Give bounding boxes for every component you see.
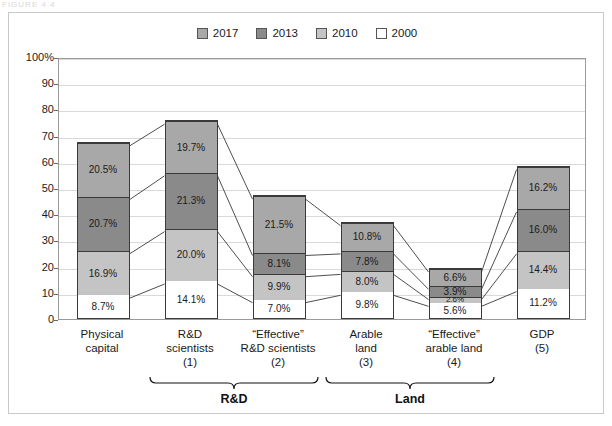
legend-item-2010[interactable]: 2010 xyxy=(316,27,358,39)
bar-segment[interactable]: 8.0% xyxy=(342,271,393,292)
bar-column[interactable]: 11.2%14.4%16.0%16.2% xyxy=(517,166,570,319)
y-tick-mark-10 xyxy=(54,294,58,295)
bar-segment-value: 8.7% xyxy=(92,302,115,312)
gridline-90 xyxy=(59,85,585,86)
bar-segment-value: 14.1% xyxy=(177,295,205,305)
x-axis-label-line: Arable xyxy=(322,327,410,341)
bar-segment[interactable]: 8.7% xyxy=(78,295,129,318)
bar-segment[interactable]: 7.0% xyxy=(254,300,305,318)
brace-rd xyxy=(150,377,318,389)
chart-figure: 2017 2013 2010 2000 8.7%16.9%20.7%20.5%1… xyxy=(8,12,604,414)
bar-segment[interactable]: 16.2% xyxy=(518,167,569,209)
bar-segment[interactable]: 20.0% xyxy=(166,229,217,281)
bar-column[interactable]: 9.8%8.0%7.8%10.8% xyxy=(341,222,394,319)
bar-segment-value: 16.9% xyxy=(89,269,117,279)
bar-segment-value: 3.9% xyxy=(444,287,467,297)
legend-label-2013: 2013 xyxy=(272,27,298,39)
y-tick-label-90: 90 xyxy=(8,77,54,89)
bar-segment-value: 20.5% xyxy=(89,165,117,175)
y-tick-label-50: 50 xyxy=(8,182,54,194)
connector-line xyxy=(482,254,517,300)
bar-segment-value: 7.0% xyxy=(268,304,291,314)
x-axis-label-line: (3) xyxy=(322,355,410,369)
bar-segment[interactable]: 16.9% xyxy=(78,251,129,295)
cropped-caption-fragment: FIGURE 4.4 xyxy=(0,0,612,9)
bar-segment[interactable]: 8.1% xyxy=(254,253,305,274)
x-axis-label-line: “Effective” xyxy=(410,327,498,341)
y-tick-mark-100 xyxy=(54,58,58,59)
bar-segment[interactable]: 20.5% xyxy=(78,143,129,197)
bar-column[interactable]: 7.0%9.9%8.1%21.5% xyxy=(253,195,306,319)
bar-segment[interactable]: 21.3% xyxy=(166,173,217,229)
bar-segment[interactable]: 14.4% xyxy=(518,251,569,289)
bar-segment[interactable]: 9.8% xyxy=(342,292,393,318)
y-tick-label-80: 80 xyxy=(8,103,54,115)
connector-line xyxy=(482,170,517,272)
bar-segment-value: 6.6% xyxy=(444,273,467,283)
chart-legend: 2017 2013 2010 2000 xyxy=(9,27,605,39)
y-tick-mark-0 xyxy=(54,320,58,321)
legend-item-2000[interactable]: 2000 xyxy=(376,27,418,39)
y-tick-mark-60 xyxy=(54,163,58,164)
bar-column[interactable]: 8.7%16.9%20.7%20.5% xyxy=(77,142,130,319)
bar-segment-value: 11.2% xyxy=(529,298,557,308)
bar-segment[interactable]: 2.6% xyxy=(430,297,481,304)
bar-segment[interactable]: 3.9% xyxy=(430,286,481,296)
x-axis-label-line: (2) xyxy=(234,355,322,369)
y-tick-label-60: 60 xyxy=(8,156,54,168)
gridline-10 xyxy=(59,295,585,296)
group-label-rd: R&D xyxy=(194,392,274,406)
y-tick-label-0: 0 xyxy=(8,313,54,325)
gridline-70 xyxy=(59,138,585,139)
bar-segment[interactable]: 10.8% xyxy=(342,223,393,251)
bar-column[interactable]: 14.1%20.0%21.3%19.7% xyxy=(165,120,218,319)
legend-item-2013[interactable]: 2013 xyxy=(256,27,298,39)
y-tick-mark-90 xyxy=(54,84,58,85)
x-axis-label: Arableland(3) xyxy=(322,327,410,369)
x-axis-label: GDP(5) xyxy=(498,327,586,355)
gridline-80 xyxy=(59,111,585,112)
bar-segment-value: 20.0% xyxy=(177,250,205,260)
x-axis-label-line: (1) xyxy=(146,355,234,369)
bar-segment-value: 9.9% xyxy=(268,282,291,292)
bar-segment-value: 2.6% xyxy=(446,296,464,304)
gridline-20 xyxy=(59,269,585,270)
gridline-50 xyxy=(59,190,585,191)
y-tick-label-20: 20 xyxy=(8,261,54,273)
bar-segment[interactable]: 16.0% xyxy=(518,209,569,251)
connector-line xyxy=(306,254,341,256)
y-tick-mark-50 xyxy=(54,189,58,190)
bar-segment-value: 8.1% xyxy=(268,259,291,269)
connector-line xyxy=(218,232,253,277)
bar-segment[interactable]: 9.9% xyxy=(254,274,305,300)
group-label-land: Land xyxy=(370,392,450,406)
connector-line xyxy=(394,226,429,272)
x-axis-label: “Effective”arable land(4) xyxy=(410,327,498,369)
bar-segment[interactable]: 5.6% xyxy=(430,303,481,318)
legend-item-2017[interactable]: 2017 xyxy=(197,27,239,39)
bar-segment[interactable]: 21.5% xyxy=(254,196,305,252)
x-axis-label-line: scientists xyxy=(146,341,234,355)
y-tick-label-10: 10 xyxy=(8,287,54,299)
x-axis-label-line: R&D scientists xyxy=(234,341,322,355)
connector-line xyxy=(482,212,517,289)
plot-area: 8.7%16.9%20.7%20.5%14.1%20.0%21.3%19.7%7… xyxy=(58,58,586,320)
bar-segment-value: 5.6% xyxy=(444,306,467,316)
legend-label-2000: 2000 xyxy=(392,27,418,39)
connector-line xyxy=(306,199,341,225)
bar-column[interactable]: 5.6%2.6%3.9%6.6% xyxy=(429,268,482,319)
bar-segment[interactable]: 11.2% xyxy=(518,289,569,318)
bar-segment[interactable]: 6.6% xyxy=(430,269,481,286)
bar-segment[interactable]: 7.8% xyxy=(342,251,393,271)
x-axis-labels: PhysicalcapitalR&Dscientists(1)“Effectiv… xyxy=(58,325,586,377)
connector-line xyxy=(394,254,429,289)
connector-line xyxy=(306,295,341,302)
bar-segment[interactable]: 20.7% xyxy=(78,197,129,251)
legend-swatch-2013 xyxy=(256,28,267,39)
bar-segment[interactable]: 14.1% xyxy=(166,281,217,318)
connector-line xyxy=(130,284,165,298)
group-braces xyxy=(58,376,586,394)
bar-segment-value: 21.3% xyxy=(177,196,205,206)
bar-segment-value: 21.5% xyxy=(265,220,293,230)
bar-segment[interactable]: 19.7% xyxy=(166,121,217,173)
